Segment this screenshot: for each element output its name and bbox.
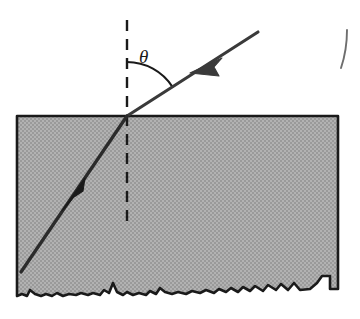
diagram-canvas xyxy=(0,0,360,319)
angle-theta-label: θ xyxy=(139,47,148,66)
refraction-diagram: θ xyxy=(0,0,360,319)
incident-ray-arrowhead xyxy=(190,58,222,76)
incident-ray xyxy=(127,32,258,116)
stray-mark xyxy=(341,30,347,68)
angle-arc xyxy=(127,62,173,87)
